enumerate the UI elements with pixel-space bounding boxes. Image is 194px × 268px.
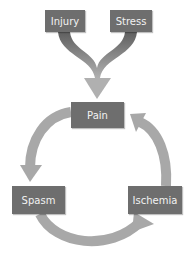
merge-arrow-icon xyxy=(58,32,137,99)
node-stress: Stress xyxy=(110,10,152,32)
node-injury: Injury xyxy=(45,10,85,32)
arrow-pain-to-spasm-icon xyxy=(20,112,71,182)
node-pain: Pain xyxy=(71,102,124,128)
diagram-arrows xyxy=(0,0,194,268)
arrow-spasm-to-ischemia-icon xyxy=(40,212,154,241)
arrow-ischemia-to-pain-icon xyxy=(130,113,166,186)
node-ischemia: Ischemia xyxy=(128,186,182,214)
node-spasm: Spasm xyxy=(12,186,65,214)
